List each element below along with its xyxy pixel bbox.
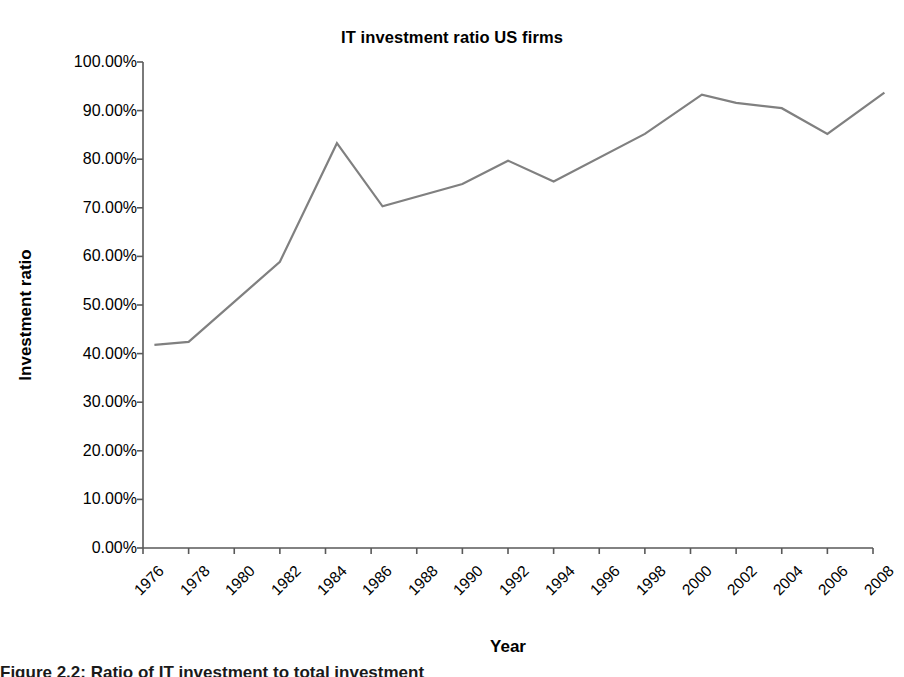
y-axis-tick-label: 30.00% <box>37 393 137 411</box>
y-axis-tick-label: 50.00% <box>37 296 137 314</box>
y-axis-tick-label: 70.00% <box>37 199 137 217</box>
y-axis-tick-label: 60.00% <box>37 247 137 265</box>
y-axis-tick-label: 10.00% <box>37 490 137 508</box>
y-axis-tick-label: 0.00% <box>37 539 137 557</box>
x-axis-title: Year <box>143 637 873 657</box>
y-axis-tick-label: 100.00% <box>37 53 137 71</box>
y-axis-tick-label: 20.00% <box>37 442 137 460</box>
y-axis-tick-label: 40.00% <box>37 345 137 363</box>
y-axis-tick-label: 80.00% <box>37 150 137 168</box>
figure-caption: Figure 2.2: Ratio of IT investment to to… <box>0 663 520 677</box>
y-axis-tick-label: 90.00% <box>37 102 137 120</box>
